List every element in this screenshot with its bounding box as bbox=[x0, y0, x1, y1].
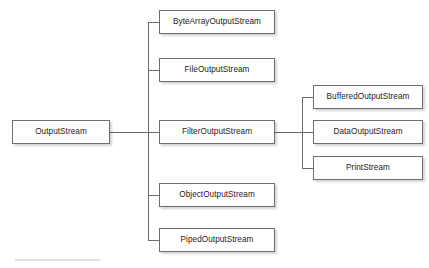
node-data-output-stream[interactable]: DataOutputStream bbox=[313, 120, 423, 144]
edge-left-trunk bbox=[148, 22, 149, 240]
edge-stub-data bbox=[302, 132, 313, 133]
edge-stub-object bbox=[148, 195, 159, 196]
node-output-stream[interactable]: OutputStream bbox=[12, 120, 110, 144]
node-object-output-stream[interactable]: ObjectOutputStream bbox=[159, 183, 275, 207]
class-hierarchy-diagram: OutputStream ByteArrayOutputStream FileO… bbox=[0, 0, 429, 268]
edge-stub-buffered bbox=[302, 97, 313, 98]
edge-stub-byte-array bbox=[148, 22, 159, 23]
edge-stub-piped bbox=[148, 240, 159, 241]
node-print-stream[interactable]: PrintStream bbox=[313, 156, 423, 180]
node-piped-output-stream[interactable]: PipedOutputStream bbox=[159, 228, 275, 252]
node-filter-output-stream[interactable]: FilterOutputStream bbox=[159, 120, 275, 144]
edge-stub-filter bbox=[148, 132, 159, 133]
edge-stub-print bbox=[302, 168, 313, 169]
node-buffered-output-stream[interactable]: BufferedOutputStream bbox=[313, 85, 423, 109]
edge-stub-file bbox=[148, 70, 159, 71]
node-file-output-stream[interactable]: FileOutputStream bbox=[159, 58, 275, 82]
node-byte-array-output-stream[interactable]: ByteArrayOutputStream bbox=[159, 10, 275, 34]
footer-divider bbox=[15, 259, 100, 261]
edge-filter-to-trunk bbox=[275, 132, 302, 133]
